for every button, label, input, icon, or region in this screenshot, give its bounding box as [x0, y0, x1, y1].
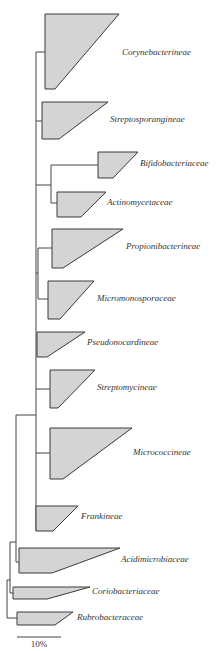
- clade-acidimicrobiaceae: Acidimicrobiaceae: [19, 548, 189, 573]
- clade-label: Corynebacterineae: [122, 47, 191, 57]
- clade-label: Bifidobacteriaceae: [140, 158, 208, 168]
- clade-label: Streptomycineae: [97, 382, 157, 392]
- scale-bar-label: 10%: [31, 639, 48, 649]
- clade-label: Acidimicrobiaceae: [120, 554, 189, 564]
- clade-wedge: [36, 506, 78, 531]
- clade-label: Actinomycetaceae: [106, 197, 172, 207]
- clade-label: Micromonosporaceae: [96, 293, 176, 303]
- tree-clades: CorynebacterineaeStreptosporangineaeBifi…: [13, 14, 208, 625]
- clade-wedge: [57, 192, 106, 217]
- clade-label: Coriobacteriaceae: [92, 586, 159, 596]
- clade-rubrobacteraceae: Rubrobacteraceae: [17, 612, 143, 625]
- clade-wedge: [50, 428, 132, 479]
- clade-propionibacterineae: Propionibacterineae: [52, 229, 200, 268]
- clade-wedge: [19, 548, 120, 573]
- clade-coriobacteriaceae: Coriobacteriaceae: [13, 586, 159, 599]
- scale-bar: 10%: [17, 637, 61, 649]
- clade-label: Streptosporangineae: [110, 114, 185, 124]
- clade-label: Rubrobacteraceae: [76, 612, 143, 622]
- clade-micrococcineae: Micrococcineae: [50, 428, 191, 479]
- phylogenetic-tree: CorynebacterineaeStreptosporangineaeBifi…: [0, 0, 217, 651]
- clade-wedge: [37, 332, 85, 357]
- clade-wedge: [42, 102, 108, 139]
- clade-wedge: [17, 612, 73, 625]
- clade-pseudonocardineae: Pseudonocardineae: [37, 332, 158, 357]
- clade-wedge: [13, 587, 90, 599]
- clade-wedge: [98, 152, 138, 178]
- clade-label: Pseudonocardineae: [86, 337, 158, 347]
- clade-frankineae: Frankineae: [36, 506, 122, 531]
- clade-corynebacterineae: Corynebacterineae: [45, 14, 191, 89]
- clade-bifidobacteriaceae: Bifidobacteriaceae: [98, 152, 208, 178]
- clade-streptosporangineae: Streptosporangineae: [42, 102, 185, 139]
- clade-micromonosporaceae: Micromonosporaceae: [48, 281, 176, 319]
- clade-label: Frankineae: [80, 511, 122, 521]
- clade-actinomycetaceae: Actinomycetaceae: [57, 192, 172, 217]
- clade-wedge: [52, 229, 123, 268]
- clade-label: Propionibacterineae: [125, 241, 200, 251]
- clade-wedge: [48, 281, 94, 319]
- clade-label: Micrococcineae: [132, 447, 191, 457]
- clade-wedge: [50, 370, 95, 408]
- clade-streptomycineae: Streptomycineae: [50, 370, 157, 408]
- clade-wedge: [45, 14, 119, 89]
